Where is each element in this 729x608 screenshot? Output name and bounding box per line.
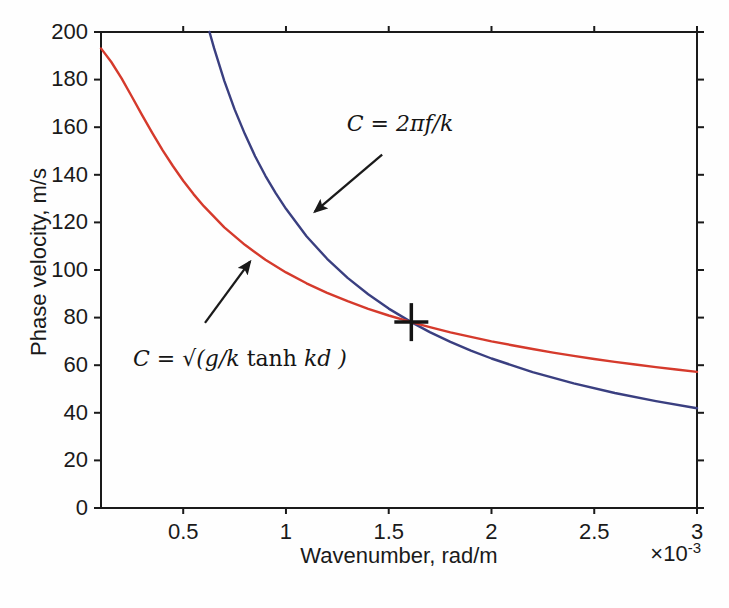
phase-velocity-figure: 0.511.522.53020406080100120140160180200 … xyxy=(0,0,729,608)
x-tick-label: 2 xyxy=(485,519,497,544)
y-tick-label: 200 xyxy=(51,19,88,44)
y-tick-label: 100 xyxy=(51,257,88,282)
y-tick-label: 120 xyxy=(51,209,88,234)
x-tick-label: 1 xyxy=(280,519,292,544)
y-tick-label: 80 xyxy=(64,304,88,329)
y-tick-label: 40 xyxy=(64,400,88,425)
red-curve-label-arrow xyxy=(205,262,250,323)
x-axis-exponent-base: ×10 xyxy=(650,541,687,566)
y-tick-label: 160 xyxy=(51,114,88,139)
y-tick-label: 140 xyxy=(51,162,88,187)
y-tick-label: 20 xyxy=(64,447,88,472)
plot-box xyxy=(101,32,697,508)
x-tick-label: 0.5 xyxy=(168,519,199,544)
red-curve-label-text: kd ) xyxy=(297,345,347,370)
red-curve-label-text: tanh xyxy=(247,345,297,370)
y-axis-title: Phase velocity, m/s xyxy=(26,168,52,356)
chart-canvas: 0.511.522.53020406080100120140160180200 xyxy=(0,0,729,608)
x-axis-exponent-power: -3 xyxy=(688,539,701,556)
blue-curve-label-text: C = 2πf/k xyxy=(347,110,454,135)
x-axis-exponent: ×10-3 xyxy=(650,541,701,567)
blue-curve-label: C = 2πf/k xyxy=(347,110,454,135)
red-curve-label-text: C = √(g/k xyxy=(133,345,247,370)
x-axis-title: Wavenumber, rad/m xyxy=(101,543,697,569)
x-tick-label: 2.5 xyxy=(579,519,610,544)
y-tick-label: 0 xyxy=(76,495,88,520)
red-curve-label: C = √(g/k tanh kd ) xyxy=(133,345,347,370)
y-tick-label: 60 xyxy=(64,352,88,377)
blue-curve-label-arrow xyxy=(315,155,382,212)
y-tick-label: 180 xyxy=(51,66,88,91)
x-tick-label: 1.5 xyxy=(373,519,404,544)
